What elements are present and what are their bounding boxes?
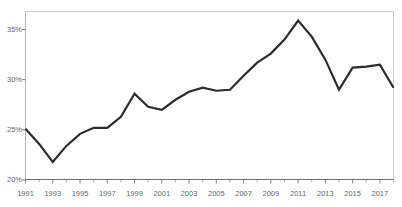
x-tick-label: 2001 bbox=[149, 190, 175, 198]
y-tick-label: 35% bbox=[0, 26, 22, 34]
x-tick-label: 2005 bbox=[203, 190, 229, 198]
y-axis-tick-marks bbox=[22, 30, 26, 180]
x-axis-tick-marks bbox=[26, 180, 394, 184]
x-tick-label: 1993 bbox=[40, 190, 66, 198]
y-tick-label: 30% bbox=[0, 76, 22, 84]
x-tick-label: 2017 bbox=[367, 190, 393, 198]
y-tick-label: 25% bbox=[0, 126, 22, 134]
x-tick-label: 1997 bbox=[94, 190, 120, 198]
y-tick-label: 20% bbox=[0, 176, 22, 184]
x-tick-label: 2009 bbox=[258, 190, 284, 198]
x-tick-label: 1995 bbox=[67, 190, 93, 198]
line-chart: 20%25%30%35% 199119931995199719992001200… bbox=[0, 0, 402, 207]
x-tick-label: 2011 bbox=[285, 190, 311, 198]
data-series-line bbox=[26, 21, 394, 162]
x-tick-label: 2003 bbox=[176, 190, 202, 198]
x-tick-label: 2015 bbox=[340, 190, 366, 198]
x-tick-label: 2007 bbox=[231, 190, 257, 198]
x-tick-label: 1991 bbox=[13, 190, 39, 198]
x-tick-label: 1999 bbox=[122, 190, 148, 198]
x-tick-label: 2013 bbox=[312, 190, 338, 198]
chart-svg-layer bbox=[0, 0, 402, 207]
